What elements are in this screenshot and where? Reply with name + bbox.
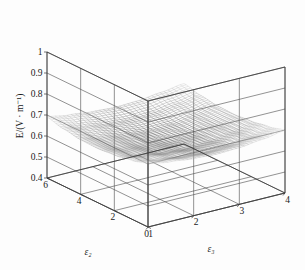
axis-tick-labels: 0.40.50.60.70.80.9102461234 [31,47,291,238]
box-edge-bottom-left [47,178,148,227]
x-tick-label: 6 [43,180,48,190]
grid-line-floor [114,177,251,211]
grid-line-horizontal [47,94,148,143]
x-tick-label: 4 [77,196,82,206]
z-tick-label: 0.7 [31,110,43,120]
grid-line-horizontal [148,172,285,206]
grid-line-horizontal [47,73,148,122]
z-axis-title: E/(V · m⁻¹) [15,94,26,139]
y-tick-label: 1 [148,229,153,239]
z-tick-label: 0.6 [31,131,43,141]
plot-canvas: 0.40.50.60.70.80.9102461234 E/(V · m⁻¹) … [0,0,305,270]
y-tick-label: 3 [239,206,244,216]
grid-line-floor [81,160,218,194]
box-edge-top-right [148,67,285,101]
y-axis-title: ε₃ [207,244,214,254]
surface-mesh [47,84,285,164]
box-edge-bottom-right [148,193,285,227]
grid-line-floor [138,155,239,204]
y-tick-label: 2 [194,217,199,227]
box-edge-bottom-back-right [184,144,285,193]
x-axis-title: ε₂ [84,247,92,257]
grid-line-floor [93,167,194,216]
surface-plot-figure: 0.40.50.60.70.80.9102461234 E/(V · m⁻¹) … [0,0,305,270]
z-tick-label: 0.4 [31,173,43,183]
box-edge-top-left [47,52,148,101]
z-tick-label: 0.9 [31,68,43,78]
x-tick-label: 2 [110,212,115,222]
z-tick-label: 1 [38,47,43,57]
z-tick-label: 0.8 [31,89,43,99]
y-tick-label: 4 [285,195,290,205]
z-tick-label: 0.5 [31,152,43,162]
